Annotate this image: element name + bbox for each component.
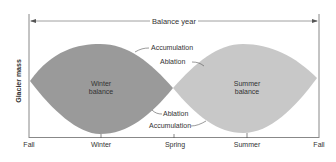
winter-label-line2: balance	[89, 88, 114, 95]
x-label-summer: Summer	[234, 141, 261, 148]
x-label-fall-start: Fall	[23, 141, 35, 148]
x-label-fall-end: Fall	[313, 141, 325, 148]
summer-label-line2: balance	[235, 88, 260, 95]
annotation-top-ablation: Ablation	[160, 58, 185, 65]
x-label-spring: Spring	[165, 141, 185, 149]
x-label-winter: Winter	[91, 141, 112, 148]
winter-label-line1: Winter	[91, 80, 112, 87]
leader-bottom-accumulation	[191, 121, 206, 126]
annotation-top-accumulation: Accumulation	[151, 44, 193, 51]
arrow-right-icon	[312, 19, 318, 23]
leader-top-accumulation	[135, 48, 149, 52]
leader-bottom-ablation	[152, 110, 162, 114]
arrow-left-icon	[30, 19, 36, 23]
glacier-mass-balance-diagram: Balance year Glacier mass Winter balance…	[0, 0, 336, 162]
balance-year-label: Balance year	[152, 17, 196, 26]
annotation-bottom-ablation: Ablation	[163, 110, 188, 117]
summer-label-line1: Summer	[234, 80, 261, 87]
annotation-bottom-accumulation: Accumulation	[149, 122, 191, 129]
y-axis-label: Glacier mass	[15, 59, 22, 103]
